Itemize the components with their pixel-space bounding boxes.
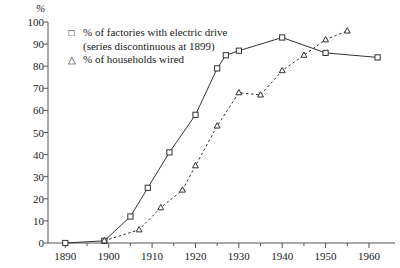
square-marker-icon — [236, 48, 241, 53]
series-line-factories — [65, 38, 377, 244]
legend-item-factories: □ % of factories with electric drive — [66, 26, 227, 40]
square-marker-icon — [167, 150, 172, 155]
legend-label-factories: % of factories with electric drive — [83, 26, 227, 40]
square-marker-icon — [375, 55, 380, 60]
triangle-marker-icon — [323, 37, 329, 42]
triangle-marker-icon — [301, 52, 307, 57]
triangle-marker-icon — [158, 204, 164, 209]
chart-container: % 0102030405060708090100 189019001910192… — [0, 0, 400, 268]
chart-legend: □ % of factories with electric drive (se… — [66, 26, 227, 67]
square-marker-icon — [128, 214, 133, 219]
triangle-marker-icon — [136, 227, 142, 232]
square-marker-icon — [280, 35, 285, 40]
triangle-marker-icon — [180, 187, 186, 192]
square-marker-icon — [193, 112, 198, 117]
legend-label-households: % of households wired — [83, 53, 184, 67]
triangle-marker-icon — [258, 92, 264, 97]
triangle-marker-icon — [279, 67, 285, 72]
triangle-marker-icon — [193, 163, 199, 168]
legend-note-factories: (series discontinuous at 1899) — [83, 40, 227, 54]
square-marker-icon — [63, 240, 68, 245]
square-marker-icon: □ — [66, 26, 77, 40]
triangle-marker-icon — [236, 90, 242, 95]
triangle-marker-icon: △ — [66, 53, 77, 67]
square-marker-icon — [323, 50, 328, 55]
legend-item-households: △ % of households wired — [66, 53, 227, 67]
triangle-marker-icon — [344, 28, 350, 33]
square-marker-icon — [145, 185, 150, 190]
square-marker-icon — [215, 66, 220, 71]
